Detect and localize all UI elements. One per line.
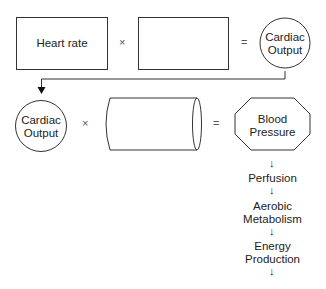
equals-sign-2: = bbox=[213, 117, 219, 129]
label-line: Aerobic bbox=[230, 200, 315, 213]
label-line: Cardiac bbox=[16, 114, 66, 127]
energy-production-label: Energy Production bbox=[230, 240, 315, 266]
arrowhead-icon bbox=[38, 87, 46, 94]
connector-line bbox=[42, 71, 286, 88]
down-arrow-icon: ↓ bbox=[269, 184, 275, 196]
multiply-sign-2: × bbox=[82, 117, 88, 129]
label-line: Blood bbox=[235, 113, 310, 126]
label-line: Pressure bbox=[235, 126, 310, 139]
aerobic-metabolism-label: Aerobic Metabolism bbox=[230, 200, 315, 226]
label-line: Energy bbox=[230, 240, 315, 253]
down-arrow-icon: ↓ bbox=[269, 157, 275, 169]
down-arrow-icon: ↓ bbox=[269, 265, 275, 277]
cardiac-output-label-top: Cardiac Output bbox=[260, 31, 310, 57]
label-line: Output bbox=[260, 44, 310, 57]
heart-rate-label: Heart rate bbox=[16, 37, 108, 50]
vessel-cylinder bbox=[106, 98, 197, 150]
equals-sign: = bbox=[241, 36, 247, 48]
blank-box bbox=[139, 18, 229, 70]
cardiac-output-label-bottom: Cardiac Output bbox=[16, 114, 66, 140]
vessel-cylinder-end bbox=[193, 98, 202, 150]
label-line: Cardiac bbox=[260, 31, 310, 44]
label-line: Output bbox=[16, 127, 66, 140]
blood-pressure-label: Blood Pressure bbox=[235, 113, 310, 139]
down-arrow-icon: ↓ bbox=[269, 225, 275, 237]
multiply-sign: × bbox=[119, 36, 125, 48]
